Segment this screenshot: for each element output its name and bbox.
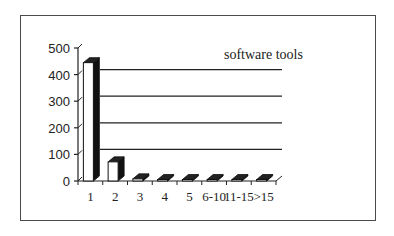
bar [232,175,248,182]
bar [257,175,273,182]
y-tick-label: 0 [63,174,70,189]
y-tick-label: 300 [48,94,70,109]
x-tick-label: >15 [253,189,273,204]
bar-chart: 0100200300400500 123456-1011-15>15 softw… [0,0,394,236]
y-tick-label: 400 [48,68,70,83]
x-tick-label: 6-10 [202,189,226,204]
x-tick-label: 2 [112,189,119,204]
bar [207,175,223,182]
bar [108,157,124,181]
x-tick-label: 4 [161,189,168,204]
x-tick-label: 1 [87,189,94,204]
x-tick-label: 5 [186,189,193,204]
bars [83,58,272,181]
y-tick-label: 200 [48,121,70,136]
bar [133,174,149,181]
x-tick-label: 3 [137,189,144,204]
bar [158,175,174,182]
y-tick-label: 100 [48,147,70,162]
bar [83,58,99,181]
bar [182,175,198,182]
x-tick-label: 11-15 [224,189,254,204]
legend-label: software tools [224,47,303,62]
y-tick-label: 500 [48,41,70,56]
gridlines [100,70,282,150]
y-axis: 0100200300400500 [48,41,82,189]
